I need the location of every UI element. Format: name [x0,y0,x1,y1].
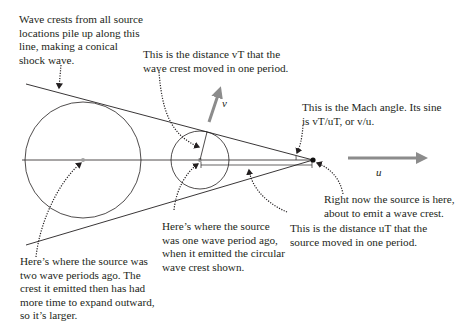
annotation-mach-angle-line1: This is the Mach angle. Its sine [302,101,442,115]
leader-vT-distance [159,72,199,147]
v-vector-label: v⃗ [222,97,235,109]
leader-shock-line [59,65,61,88]
annotation-shock-line: Wave crests from all source locations pi… [19,13,143,67]
v-vector-arrow [209,92,219,122]
leader-mach-angle [297,125,303,153]
source-current-position [310,157,315,162]
annotation-uT-distance: This is the distance uT that the source … [290,222,427,249]
leader-source-now [317,163,343,194]
leader-uT-distance [249,170,287,212]
annotation-source-now: Right now the source is here, about to e… [324,193,455,220]
upper-shock-line [26,84,313,160]
annotation-vT-distance: This is the distance vT that the wave cr… [143,48,288,75]
source-position-two-periods-ago [81,158,85,162]
shock-wave-diagram: v⃗ u⃗ Wave crests from all source locati… [0,0,466,332]
vT-radius-line [200,132,207,160]
annotation-two-periods-ago: Here’s where the source was two wave per… [20,255,155,323]
annotation-one-period-ago: Here’s where the source was one wave per… [162,220,285,274]
leader-one-period-ago [174,164,198,210]
annotation-mach-angle-line2: is vT/uT, or v/u. [302,115,374,129]
leader-two-periods-ago [36,163,81,257]
u-vector-label: u⃗ [376,166,390,178]
